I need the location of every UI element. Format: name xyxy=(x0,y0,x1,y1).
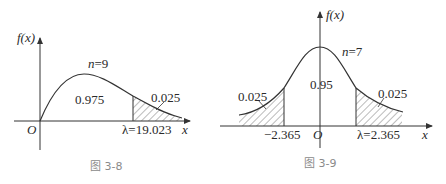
x-axis-label: x xyxy=(421,127,428,142)
origin-label: O xyxy=(27,122,37,137)
critical-value-label: λ=2.365 xyxy=(357,127,400,142)
figure-caption: 图 3-9 xyxy=(304,157,336,170)
origin-label: O xyxy=(313,127,323,142)
figures-canvas: f(x) n=9 0.975 0.025 O λ=19.023 x 图 3-8 … xyxy=(0,0,446,184)
figure-3-9: f(x) n=7 0.95 0.025 0.025 −2.365 O λ=2.3… xyxy=(220,7,432,170)
df-label: n=9 xyxy=(88,56,108,71)
y-axis-label: f(x) xyxy=(326,7,344,22)
x-axis-label: x xyxy=(181,122,188,137)
figure-caption: 图 3-8 xyxy=(90,160,122,173)
y-axis-label: f(x) xyxy=(17,30,35,45)
figure-3-8: f(x) n=9 0.975 0.025 O λ=19.023 x 图 3-8 xyxy=(14,30,190,173)
left-critical-value-label: −2.365 xyxy=(264,127,301,142)
left-tail-label: 0.025 xyxy=(238,89,267,104)
right-tail-label: 0.025 xyxy=(378,86,407,101)
df-label: n=7 xyxy=(342,44,363,59)
critical-value-label: λ=19.023 xyxy=(122,122,171,137)
right-tail-label: 0.025 xyxy=(151,90,180,105)
center-area-label: 0.95 xyxy=(310,77,333,92)
center-area-label: 0.975 xyxy=(75,92,104,107)
